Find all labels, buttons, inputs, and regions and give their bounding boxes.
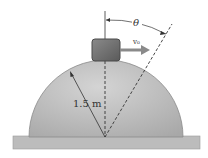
hemisphere-dome xyxy=(29,60,183,137)
angle-arrowhead-right-icon xyxy=(160,31,166,35)
radius-label: 1.5 m xyxy=(73,98,102,109)
hemisphere-block-diagram: 1.5 m θ v₀ xyxy=(0,0,208,158)
angle-label: θ xyxy=(133,17,139,28)
ground xyxy=(13,136,200,149)
angle-arrowhead-left-icon xyxy=(106,18,110,22)
block xyxy=(92,39,120,61)
velocity-label: v₀ xyxy=(132,38,140,46)
velocity-arrowhead-icon xyxy=(141,45,150,55)
